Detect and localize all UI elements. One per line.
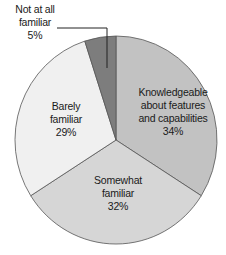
label-percent: 34% [124, 125, 222, 138]
label-not-at-all-familiar: Not at all familiar 5% [2, 3, 68, 42]
label-percent: 5% [2, 29, 68, 42]
label-line: Somewhat [85, 174, 151, 187]
label-knowledgeable: Knowledgeable about features and capabil… [124, 86, 222, 138]
label-barely-familiar: Barely familiar 29% [36, 100, 96, 139]
label-line: and capabilities [124, 112, 222, 125]
label-line: familiar [2, 16, 68, 29]
label-percent: 29% [36, 126, 96, 139]
label-line: about features [124, 99, 222, 112]
label-somewhat-familiar: Somewhat familiar 32% [85, 174, 151, 213]
label-line: Not at all [2, 3, 68, 16]
label-line: familiar [36, 113, 96, 126]
label-line: familiar [85, 187, 151, 200]
label-line: Knowledgeable [124, 86, 222, 99]
label-line: Barely [36, 100, 96, 113]
label-percent: 32% [85, 200, 151, 213]
